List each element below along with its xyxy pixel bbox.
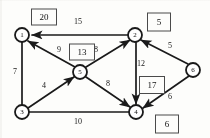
edge-weight-5-1: 9 xyxy=(57,46,61,54)
edge-6-2 xyxy=(141,40,188,64)
potential-box-node-5: 13 xyxy=(69,44,95,61)
edge-weight-6-4: 6 xyxy=(168,93,172,101)
node-label-3: 3 xyxy=(20,109,24,116)
potential-box-node-1: 20 xyxy=(31,9,57,26)
potential-box-node-6: 6 xyxy=(155,115,179,134)
node-label-5: 5 xyxy=(78,69,82,76)
edge-weight-3-4: 10 xyxy=(74,118,82,126)
edge-weight-2-4: 12 xyxy=(137,60,145,68)
node-label-4: 4 xyxy=(134,109,138,116)
edge-weight-5-4: 8 xyxy=(106,80,110,88)
potential-box-node-2: 5 xyxy=(147,13,171,32)
node-label-6: 6 xyxy=(191,67,195,74)
node-layer xyxy=(15,28,200,119)
edge-layer xyxy=(22,35,189,112)
diagram-canvas: 1 2 3 4 5 6 15 7 9 8 4 8 10 12 5 6 20 5 … xyxy=(0,0,210,138)
edge-weight-2-1: 15 xyxy=(74,18,82,26)
edge-5-1 xyxy=(28,41,75,67)
edge-3-5 xyxy=(28,77,74,108)
node-label-1: 1 xyxy=(20,32,24,39)
edge-weight-3-5: 4 xyxy=(42,82,46,90)
edge-weight-1-3: 7 xyxy=(13,68,17,76)
potential-box-node-4: 17 xyxy=(139,76,165,94)
node-label-2: 2 xyxy=(133,32,137,39)
edge-weight-6-2: 5 xyxy=(168,42,172,50)
